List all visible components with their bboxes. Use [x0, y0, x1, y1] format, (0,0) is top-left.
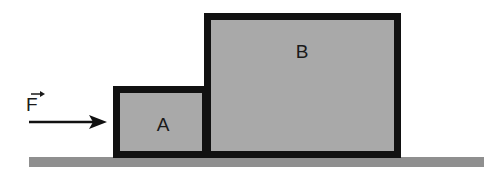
force-arrow-icon	[29, 115, 107, 129]
block-b-label: B	[287, 42, 317, 61]
block-a-label: A	[148, 115, 178, 134]
ground-surface	[29, 157, 484, 167]
force-label: F	[26, 95, 46, 117]
block-b	[204, 13, 401, 158]
